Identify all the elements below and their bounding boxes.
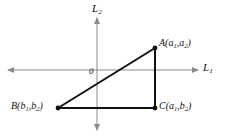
vertex-point-c (153, 106, 158, 111)
point-b-paren-close: ) (39, 100, 42, 111)
point-c-name: C (159, 100, 166, 111)
point-c-coord1-sub: 1 (174, 105, 177, 112)
point-label-a: A(a1,a2) (159, 38, 191, 48)
vertex-point-b (56, 106, 61, 111)
point-a-coord1-sub: 1 (173, 42, 176, 49)
axis-l1-sub: 1 (209, 67, 213, 75)
point-label-b: B(b1,b2) (11, 101, 43, 111)
point-b-coord1-sub: 1 (25, 105, 28, 112)
point-a-coord2-sub: 2 (184, 42, 187, 49)
vertex-point-a (153, 46, 158, 51)
axis-label-l2: L2 (92, 3, 102, 14)
figure-canvas (0, 0, 230, 137)
origin-label: 0 (89, 67, 94, 76)
point-label-c: C(a1,b2) (159, 101, 191, 111)
axis-l2-sub: 2 (98, 8, 102, 16)
point-b-coord2-sub: 2 (36, 105, 39, 112)
geometry-figure: A(a1,a2) B(b1,b2) C(a1,b2) L1 L2 0 (0, 0, 230, 137)
point-a-paren-close: ) (187, 37, 190, 48)
axis-label-l1: L1 (203, 62, 213, 73)
point-c-coord2-sub: 2 (185, 105, 188, 112)
segment-hypotenuse-ba (58, 48, 155, 108)
point-c-paren-close: ) (188, 100, 191, 111)
